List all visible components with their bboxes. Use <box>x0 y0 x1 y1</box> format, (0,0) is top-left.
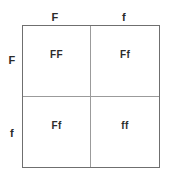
genotype-text: Ff <box>51 120 61 131</box>
genotype-text: Ff <box>120 49 130 60</box>
genotype-text: ff <box>121 120 128 131</box>
punnett-grid: FF Ff Ff ff <box>22 25 160 168</box>
punnett-cell-bottom-right: ff <box>91 97 159 168</box>
punnett-square-figure: F f F f FF Ff Ff ff <box>0 0 173 182</box>
row-allele-label-1: F <box>2 54 22 67</box>
punnett-cell-bottom-left: Ff <box>23 97 91 168</box>
column-allele-label-1: F <box>40 11 70 24</box>
row-allele-label-2: f <box>2 127 22 140</box>
punnett-cell-top-right: Ff <box>91 26 159 97</box>
punnett-cell-top-left: FF <box>23 26 91 97</box>
genotype-text: FF <box>50 49 63 60</box>
column-allele-label-2: f <box>109 11 139 24</box>
